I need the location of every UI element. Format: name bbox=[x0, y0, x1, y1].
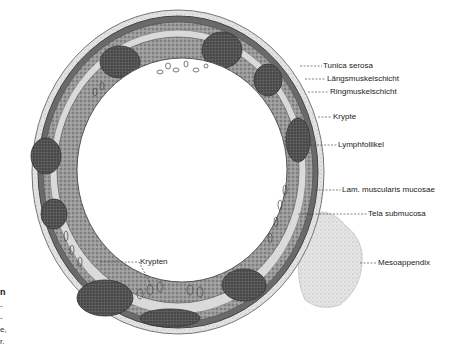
label-krypten: Krypten bbox=[140, 257, 168, 267]
label-krypte: Krypte bbox=[333, 112, 356, 122]
label-tela-submucosa: Tela submucosa bbox=[368, 209, 426, 219]
label-lam-muscularis-mucosae: Lam. muscularis mucosae bbox=[342, 185, 435, 195]
label-ringmuskelschicht: Ringmuskelschicht bbox=[330, 87, 397, 97]
label-mesoappendix: Mesoappendix bbox=[378, 258, 430, 268]
caption-fragment: - bbox=[0, 313, 3, 322]
lumen bbox=[77, 58, 287, 282]
histology-drawing bbox=[0, 0, 455, 352]
caption-fragment: n bbox=[0, 288, 6, 297]
caption-fragment: r. bbox=[0, 337, 4, 346]
label-lymphfollikel: Lymphfollikel bbox=[338, 140, 384, 150]
caption-fragment: e, bbox=[0, 325, 7, 334]
caption-fragment: - bbox=[0, 301, 3, 310]
label-laengsmuskelschicht: Längsmuskelschicht bbox=[327, 74, 399, 84]
label-tunica-serosa: Tunica serosa bbox=[323, 61, 373, 71]
appendix-cross-section-figure: Tunica serosa Längsmuskelschicht Ringmus… bbox=[0, 0, 455, 352]
